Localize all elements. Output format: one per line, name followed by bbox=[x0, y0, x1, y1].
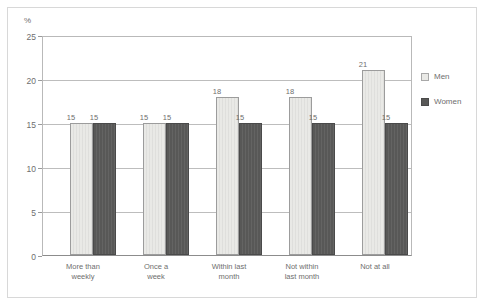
y-tick-label-10: 10 bbox=[10, 164, 36, 174]
category-label-not-at-all: Not at all bbox=[351, 262, 399, 272]
category-label-once-a-week: Once a week bbox=[132, 262, 180, 281]
bar-women-within-last-month bbox=[239, 123, 262, 255]
bar-women-once-a-week bbox=[166, 123, 189, 255]
gridline-20 bbox=[43, 80, 411, 81]
category-label-more-than-weekly: More than weekly bbox=[59, 262, 107, 281]
bar-value-women-2: 15 bbox=[155, 113, 179, 122]
category-label-within-last-month: Within last month bbox=[205, 262, 253, 281]
y-axis-unit-label: % bbox=[24, 16, 31, 25]
plot-area bbox=[42, 36, 412, 256]
y-tick-label-20: 20 bbox=[10, 76, 36, 86]
bar-value-women-1: 15 bbox=[82, 113, 106, 122]
y-tick-label-0: 0 bbox=[10, 252, 36, 262]
bar-value-men-2: 15 bbox=[132, 113, 156, 122]
bar-women-not-within-last-month bbox=[312, 123, 335, 255]
legend-label-women: Women bbox=[434, 97, 461, 106]
legend-swatch-men-icon bbox=[421, 73, 429, 81]
legend-swatch-women-icon bbox=[421, 98, 429, 106]
category-label-not-within-last-month: Not within last month bbox=[278, 262, 326, 281]
bar-men-more-than-weekly bbox=[70, 123, 93, 255]
chart-legend: Men Women bbox=[421, 72, 477, 122]
bar-men-once-a-week bbox=[143, 123, 166, 255]
y-tick-label-15: 15 bbox=[10, 120, 36, 130]
bar-value-men-1: 15 bbox=[59, 113, 83, 122]
bar-value-women-5: 15 bbox=[374, 113, 398, 122]
y-tick-label-25: 25 bbox=[10, 32, 36, 42]
bar-value-women-4: 15 bbox=[301, 113, 325, 122]
bar-women-more-than-weekly bbox=[93, 123, 116, 255]
bar-value-men-3: 18 bbox=[205, 87, 229, 96]
legend-item-women: Women bbox=[421, 97, 477, 109]
chart-figure: % 25 20 15 10 5 0 15 15 15 15 18 15 bbox=[0, 0, 485, 306]
bar-men-not-at-all bbox=[362, 70, 385, 255]
bar-value-men-5: 21 bbox=[351, 60, 375, 69]
bar-value-men-4: 18 bbox=[278, 87, 302, 96]
legend-label-men: Men bbox=[434, 72, 450, 81]
y-tick-label-5: 5 bbox=[10, 208, 36, 218]
legend-item-men: Men bbox=[421, 72, 477, 84]
bar-value-women-3: 15 bbox=[228, 113, 252, 122]
y-tick-mark-0 bbox=[38, 256, 42, 257]
bar-women-not-at-all bbox=[385, 123, 408, 255]
